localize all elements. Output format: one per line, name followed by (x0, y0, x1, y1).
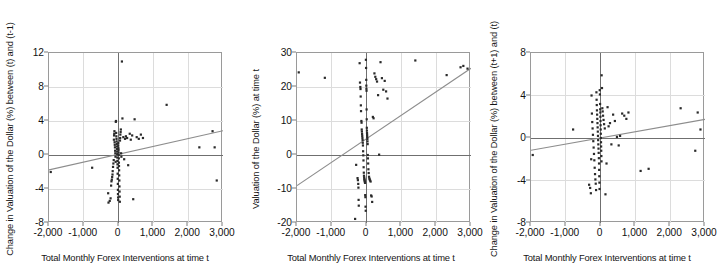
y-tick-label: -8 (517, 217, 526, 228)
data-point (357, 183, 359, 185)
data-point (117, 183, 119, 185)
data-point (680, 107, 682, 109)
data-point (588, 184, 590, 186)
data-point (597, 143, 599, 145)
x-axis-label: Total Monthly Forex Interventions at tim… (4, 252, 246, 263)
trend-line (297, 68, 471, 185)
y-tick-label: 20 (281, 81, 292, 92)
data-point (366, 134, 368, 136)
data-point (594, 173, 596, 175)
data-points (298, 59, 469, 220)
data-point (356, 177, 358, 179)
data-point (115, 138, 117, 140)
data-point (532, 154, 534, 156)
y-tick-mark (526, 137, 530, 138)
data-point (612, 114, 614, 116)
data-point (375, 78, 377, 80)
data-point (598, 169, 600, 171)
y-tick-label: 0 (520, 132, 526, 143)
data-point (366, 136, 368, 138)
data-point (606, 106, 608, 108)
data-point (597, 126, 599, 128)
chart-panel-left: Change in Valuation of the Dollar (%) be… (0, 0, 242, 278)
data-point (619, 135, 621, 137)
y-tick-label: -20 (277, 217, 292, 228)
plot-wrapper: -8-4048-2,000-1,00001,0002,0003,000 (530, 52, 704, 222)
y-tick-label: 4 (38, 115, 44, 126)
y-tick-label: -8 (35, 217, 44, 228)
x-tick-mark (330, 222, 331, 226)
y-tick-mark (292, 154, 296, 155)
data-point (597, 148, 599, 150)
y-tick-label: 4 (520, 89, 526, 100)
data-point (367, 157, 369, 159)
data-point (113, 139, 115, 141)
y-axis-label: Change in Valuation of the Dollar (%) be… (486, 0, 502, 278)
data-point (600, 137, 602, 139)
data-point (118, 151, 120, 153)
y-tick-mark (44, 154, 48, 155)
data-point (114, 144, 116, 146)
data-point (120, 131, 122, 133)
x-tick-label: 3,000 (691, 227, 717, 238)
data-point (113, 159, 115, 161)
data-point (597, 135, 599, 137)
y-tick-mark (292, 188, 296, 189)
y-tick-label: 8 (38, 81, 44, 92)
x-tick-label: 2,000 (422, 227, 448, 238)
data-point (124, 138, 126, 140)
data-point (590, 192, 592, 194)
y-tick-label: 12 (33, 47, 44, 58)
data-point (360, 110, 362, 112)
data-point (699, 128, 701, 130)
data-point (211, 130, 213, 132)
data-point (600, 141, 602, 143)
data-point (595, 99, 597, 101)
x-tick-label: -2,000 (282, 227, 311, 238)
data-point (598, 152, 600, 154)
data-point (364, 194, 366, 196)
data-point (602, 119, 604, 121)
data-point (599, 93, 601, 95)
plot-area (296, 52, 470, 222)
data-point (610, 143, 612, 145)
data-point (364, 196, 366, 198)
data-point (597, 131, 599, 133)
data-point (361, 137, 363, 139)
data-point (376, 80, 378, 82)
data-point (598, 188, 600, 190)
data-point (362, 144, 364, 146)
data-point (364, 206, 366, 208)
data-point (600, 128, 602, 130)
data-point (107, 192, 109, 194)
data-point (367, 168, 369, 170)
x-tick-label: 0 (115, 227, 121, 238)
y-tick-mark (44, 120, 48, 121)
data-point (600, 160, 602, 162)
data-point (354, 218, 356, 220)
data-point (111, 179, 113, 181)
data-point (596, 104, 598, 106)
data-point (111, 176, 113, 178)
data-point (366, 129, 368, 131)
data-point (604, 127, 606, 129)
data-point (591, 112, 593, 114)
y-tick-mark (292, 120, 296, 121)
data-point (367, 143, 369, 145)
data-point (50, 171, 52, 173)
data-point (599, 120, 601, 122)
data-point (119, 134, 121, 136)
data-point (115, 135, 117, 137)
data-point (132, 198, 134, 200)
data-point (115, 120, 117, 122)
plot-area (48, 52, 222, 222)
data-point (371, 195, 373, 197)
data-point (594, 167, 596, 169)
chart-panel-right: Change in Valuation of the Dollar (%) be… (484, 0, 726, 278)
data-point (609, 122, 611, 124)
y-tick-mark (526, 179, 530, 180)
data-point (604, 193, 606, 195)
data-point (357, 187, 359, 189)
data-point (359, 88, 361, 90)
data-point (596, 122, 598, 124)
